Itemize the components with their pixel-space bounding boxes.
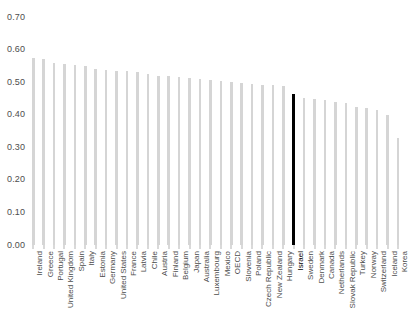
x-axis-tick-label: Korea xyxy=(401,251,409,272)
bar-slot xyxy=(91,17,101,245)
bar[interactable] xyxy=(74,65,77,245)
bar[interactable] xyxy=(220,81,223,245)
bar[interactable] xyxy=(188,78,191,245)
bar-slot xyxy=(28,17,38,245)
bar[interactable] xyxy=(272,85,275,245)
x-axis-tick-mark xyxy=(199,245,200,249)
y-axis-tick-label: 0.40 xyxy=(7,110,25,119)
x-axis-tick-mark xyxy=(54,245,55,249)
x-axis-tick-mark xyxy=(137,245,138,249)
bar-highlighted[interactable] xyxy=(292,94,295,245)
bar[interactable] xyxy=(147,74,150,245)
bar[interactable] xyxy=(53,63,56,245)
x-axis-tick-mark xyxy=(231,245,232,249)
bar[interactable] xyxy=(365,108,368,245)
bar[interactable] xyxy=(178,77,181,245)
x-axis-tick-mark xyxy=(179,245,180,249)
bar[interactable] xyxy=(240,83,243,245)
x-axis-tick-mark xyxy=(366,245,367,249)
y-axis-tick-label: 0.00 xyxy=(7,241,25,250)
x-axis-tick-mark xyxy=(43,245,44,249)
bar-slot xyxy=(289,17,299,245)
x-axis-tick-mark xyxy=(33,245,34,249)
bar[interactable] xyxy=(230,82,233,245)
bar[interactable] xyxy=(313,99,316,245)
bar[interactable] xyxy=(386,115,389,245)
bar-slot xyxy=(268,17,278,245)
bar[interactable] xyxy=(261,85,264,245)
bar-slot xyxy=(195,17,205,245)
bar[interactable] xyxy=(115,71,118,245)
bar-slot xyxy=(38,17,48,245)
bar-slot xyxy=(143,17,153,245)
y-axis-tick-label: 0.60 xyxy=(7,45,25,54)
x-axis-labels: IrelandGreecePortugalUnited KingdomSpain… xyxy=(28,245,403,327)
bar[interactable] xyxy=(167,76,170,245)
bar[interactable] xyxy=(105,70,108,245)
x-axis-label-slot: Finland xyxy=(163,245,173,327)
x-axis-tick-mark xyxy=(397,245,398,249)
bar[interactable] xyxy=(303,98,306,245)
bar[interactable] xyxy=(324,100,327,245)
bar-slot xyxy=(132,17,142,245)
x-axis-tick-mark xyxy=(210,245,211,249)
bar[interactable] xyxy=(126,71,129,245)
bar[interactable] xyxy=(42,59,45,245)
x-axis-label-slot: Estonia xyxy=(91,245,101,327)
x-axis-tick-mark xyxy=(189,245,190,249)
x-axis-label-slot: Germany xyxy=(101,245,111,327)
bar-slot xyxy=(320,17,330,245)
x-axis-label-slot: Ireland xyxy=(28,245,38,327)
bar[interactable] xyxy=(84,66,87,245)
bar[interactable] xyxy=(199,79,202,245)
bar-slot xyxy=(382,17,392,245)
bar-slot xyxy=(341,17,351,245)
y-axis-tick-label: 0.70 xyxy=(7,13,25,22)
bar[interactable] xyxy=(209,80,212,245)
x-axis-label-slot: Hungary xyxy=(278,245,288,327)
x-axis-label-slot: Netherlands xyxy=(330,245,340,327)
bar-slot xyxy=(101,17,111,245)
bar[interactable] xyxy=(282,86,285,245)
x-axis-label-slot: Sweden xyxy=(299,245,309,327)
bar-slot xyxy=(299,17,309,245)
y-axis-tick-label: 0.50 xyxy=(7,78,25,87)
x-axis-tick-mark xyxy=(314,245,315,249)
bar[interactable] xyxy=(355,107,358,245)
x-axis-label-slot: Poland xyxy=(247,245,257,327)
x-axis-label-slot: United Kingdom xyxy=(59,245,69,327)
bar[interactable] xyxy=(63,64,66,245)
bar-slot xyxy=(278,17,288,245)
x-axis-tick-mark xyxy=(377,245,378,249)
x-axis-label-slot: Turkey xyxy=(351,245,361,327)
x-axis-tick-mark xyxy=(158,245,159,249)
bar[interactable] xyxy=(334,102,337,245)
bar[interactable] xyxy=(94,69,97,245)
x-axis-tick-mark xyxy=(283,245,284,249)
x-axis-label-slot: Portugal xyxy=(49,245,59,327)
bar[interactable] xyxy=(251,84,254,245)
bar-slot xyxy=(372,17,382,245)
bar-slot xyxy=(59,17,69,245)
x-axis-label-slot: Israel xyxy=(289,245,299,327)
x-axis-label-slot: Chile xyxy=(143,245,153,327)
bar[interactable] xyxy=(136,72,139,245)
bar[interactable] xyxy=(397,138,400,245)
x-axis-tick-mark xyxy=(252,245,253,249)
bar[interactable] xyxy=(32,58,35,245)
bar-slot xyxy=(236,17,246,245)
bar-slot xyxy=(49,17,59,245)
bar-slot xyxy=(70,17,80,245)
x-axis-label-slot: New Zealand xyxy=(268,245,278,327)
x-axis-tick-mark xyxy=(95,245,96,249)
bar-slot xyxy=(184,17,194,245)
x-axis-label-slot: Greece xyxy=(38,245,48,327)
bar[interactable] xyxy=(345,103,348,245)
bar[interactable] xyxy=(376,110,379,245)
x-axis-tick-mark xyxy=(345,245,346,249)
x-axis-label-slot: Japan xyxy=(184,245,194,327)
x-axis-tick-mark xyxy=(147,245,148,249)
plot-area xyxy=(28,17,403,245)
bar[interactable] xyxy=(157,76,160,245)
